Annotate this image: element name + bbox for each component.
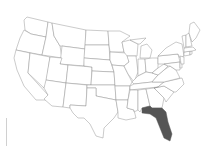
state-kansas[interactable] — [91, 71, 115, 85]
state-new-mexico[interactable] — [63, 83, 87, 108]
state-massachusetts[interactable] — [184, 47, 196, 52]
state-south-dakota[interactable] — [84, 45, 110, 60]
state-vermont[interactable] — [182, 35, 186, 48]
state-arizona[interactable] — [44, 80, 66, 107]
state-wyoming[interactable] — [60, 46, 85, 66]
state-rhode-island[interactable] — [190, 51, 192, 55]
state-florida[interactable] — [142, 106, 172, 141]
legend-bar — [6, 118, 7, 146]
state-north-dakota[interactable] — [85, 30, 109, 45]
state-colorado[interactable] — [66, 65, 92, 85]
us-map — [0, 0, 212, 148]
state-arkansas[interactable] — [115, 86, 130, 100]
state-maine[interactable] — [189, 22, 200, 42]
